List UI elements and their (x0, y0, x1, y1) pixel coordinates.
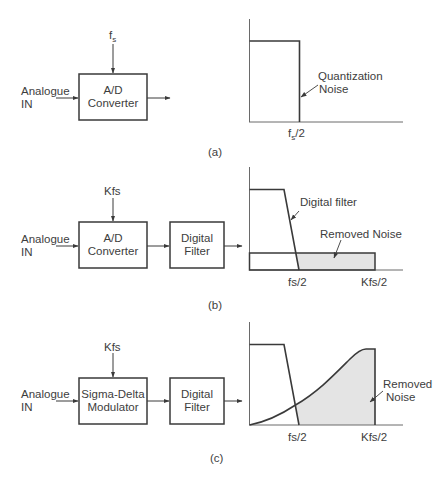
tick-fs-half: fs/2 (288, 276, 307, 289)
panel-c-spectrum (249, 322, 403, 425)
removed-noise-shading (296, 349, 376, 425)
input-label: AnalogueIN (21, 388, 70, 414)
removed-noise-annotation: RemovedNoise (383, 378, 432, 404)
ad-converter-label: A/DConverter (79, 222, 147, 268)
caption-b: (b) (208, 299, 222, 312)
removed-noise-annotation: Removed Noise (320, 228, 402, 241)
caption-c: (c) (210, 452, 223, 465)
input-label: AnalogueIN (21, 233, 70, 259)
ad-converter-label: A/DConverter (79, 74, 147, 120)
sigma-delta-modulator-label: Sigma-DeltaModulator (79, 378, 147, 424)
digital-filter-label: DigitalFilter (170, 378, 224, 424)
clock-label-kfs: Kfs (104, 185, 121, 198)
caption-a: (a) (208, 146, 222, 159)
filter-leader (291, 211, 299, 220)
digital-filter-label: DigitalFilter (170, 222, 224, 268)
quantization-noise-spectrum (250, 41, 300, 122)
input-label: AnalogueIN (21, 85, 70, 111)
tick-kfs-half: Kfs/2 (361, 431, 387, 444)
annotation-leader (301, 85, 318, 97)
tick-kfs-half: Kfs/2 (361, 276, 387, 289)
clock-label-fs: fs (109, 29, 116, 46)
digital-filter-annotation: Digital filter (300, 196, 357, 209)
digital-filter-response (250, 345, 300, 426)
digital-filter-response (250, 190, 300, 271)
quantization-noise-label: QuantizationNoise (318, 70, 383, 96)
tick-fs-half: fs/2 (288, 431, 307, 444)
tick-fs-half: fs/2 (288, 127, 305, 144)
panel-b-spectrum (249, 167, 403, 270)
clock-label-kfs: Kfs (104, 341, 121, 354)
